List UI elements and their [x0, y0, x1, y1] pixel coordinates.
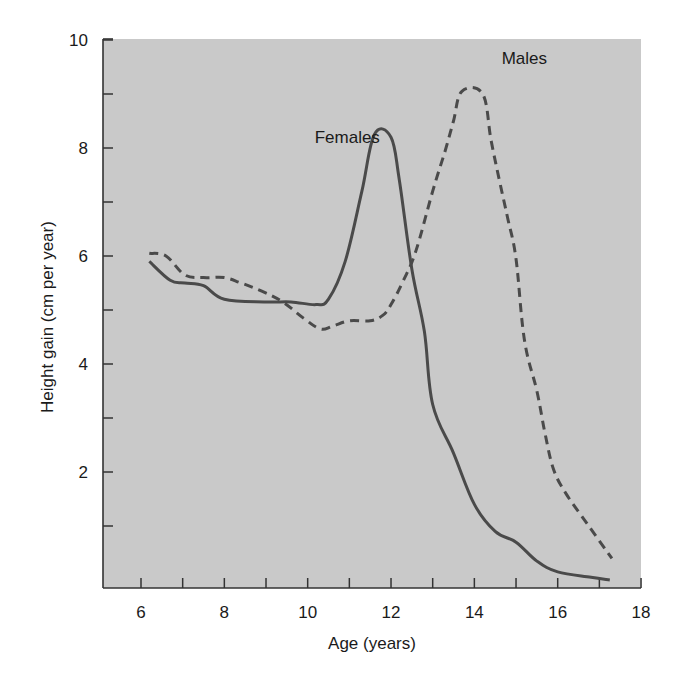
y-tick-label: 2: [79, 463, 88, 482]
x-axis-title: Age (years): [328, 634, 416, 653]
series-label-males: Males: [502, 49, 547, 68]
x-tick-label: 18: [632, 603, 651, 622]
plot-area: [103, 39, 641, 588]
x-tick-label: 12: [382, 603, 401, 622]
x-tick-label: 16: [548, 603, 567, 622]
x-tick-label: 10: [298, 603, 317, 622]
x-tick-label: 14: [465, 603, 484, 622]
y-tick-label: 4: [79, 355, 88, 374]
height-gain-chart: 681012141618 246810 FemalesMales Age (ye…: [0, 0, 678, 693]
series-label-females: Females: [315, 128, 380, 147]
y-tick-label: 6: [79, 247, 88, 266]
y-axis-title: Height gain (cm per year): [38, 221, 57, 413]
x-tick-label: 6: [136, 603, 145, 622]
x-tick-label: 8: [220, 603, 229, 622]
y-tick-label: 10: [69, 31, 88, 50]
y-tick-label: 8: [79, 139, 88, 158]
